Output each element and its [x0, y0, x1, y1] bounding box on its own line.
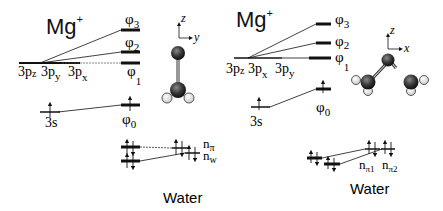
mo-label-phi1: φ1 [335, 49, 349, 73]
hydrogen-atom [352, 76, 361, 85]
correlation-line [140, 153, 185, 161]
axis-label-z: z [389, 23, 395, 37]
mo-label-phi2: φ2 [125, 34, 139, 53]
orbital-label-3pz: 3pz [18, 64, 37, 79]
orbital-label-3pz: 3pz [226, 61, 245, 76]
orbital-label-3s: 3s [45, 115, 57, 130]
water-label: Water [350, 180, 389, 197]
orbital-label-3py: 3py [275, 61, 295, 79]
hydrogen-atom [420, 76, 429, 85]
ion-label: Mg+ [46, 13, 83, 39]
correlation-line [270, 89, 316, 107]
axis-label-x: x [403, 41, 410, 55]
orbital-label-3px: 3px [248, 61, 268, 80]
orbital-label-3px: 3px [68, 64, 88, 83]
hydrogen-atom [184, 93, 194, 103]
mg-water-molecule [162, 46, 194, 103]
left-panel: Mg+ φ3 φ2 φ1 3pz 3py 3px 3s φ0 [18, 11, 218, 206]
correlation-line [58, 105, 121, 112]
water-label: Water [163, 189, 202, 206]
axis-label-y: y [193, 30, 200, 44]
mo-label-phi0: φ0 [122, 111, 137, 130]
orbital-label-3s: 3s [250, 114, 262, 129]
electron-pair [127, 141, 195, 168]
water-label-n-pi2: nπ2 [382, 157, 398, 174]
mo-diagram: Mg+ φ3 φ2 φ1 3pz 3py 3px 3s φ0 [0, 0, 443, 211]
axis-label-z: z [180, 11, 186, 25]
oxygen-atom [170, 82, 186, 98]
correlation-line [40, 52, 121, 63]
mo-label-phi0: φ0 [316, 99, 331, 118]
mo-label-phi3: φ3 [125, 11, 140, 30]
water-label-n-pi1: nπ1 [359, 157, 375, 174]
oxygen-atom [404, 75, 419, 90]
correlation-line [140, 147, 172, 148]
mo-label-phi1: φ1 [127, 63, 141, 87]
mg-atom [171, 46, 185, 60]
right-panel: Mg+ φ3 φ2 φ1 3pz 3px 3py 3s φ0 [226, 7, 429, 197]
axis-indicator [388, 35, 401, 49]
electron-pair [311, 142, 391, 170]
mo-label-phi3: φ3 [335, 11, 350, 30]
hydrogen-atom [162, 93, 172, 103]
mg-atom [382, 54, 395, 67]
axis-indicator [179, 24, 191, 38]
ion-label: Mg+ [236, 7, 273, 32]
correlation-line [248, 43, 316, 58]
oxygen-atom [361, 75, 376, 90]
orbital-label-3py: 3py [41, 64, 61, 82]
mg-water-molecule [352, 54, 429, 96]
